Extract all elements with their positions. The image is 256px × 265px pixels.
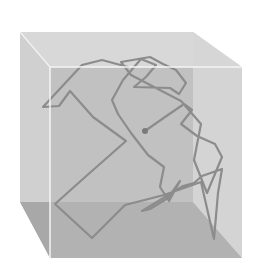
cube-random-walk-diagram [0, 0, 256, 265]
walk-start-point [142, 128, 148, 134]
figure-canvas [0, 0, 256, 265]
cube-front-face [50, 67, 242, 258]
